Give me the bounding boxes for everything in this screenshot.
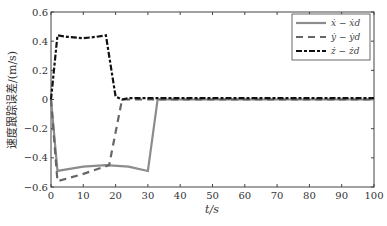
legend-item-y: ẏ − ẏd	[330, 32, 360, 42]
x-tick-label: 60	[238, 190, 251, 201]
y-tick-label: 0.2	[32, 65, 48, 76]
y-tick-label: −0.4	[24, 152, 48, 163]
x-tick-label: 80	[303, 190, 316, 201]
y-tick-label: 0.6	[32, 7, 48, 18]
x-tick-label: 90	[335, 190, 348, 201]
y-tick-label: −0.6	[24, 182, 48, 193]
x-tick-label: 10	[77, 190, 90, 201]
x-tick-label: 100	[364, 190, 383, 201]
chart: 0102030405060708090100 0.60.40.20−0.2−0.…	[0, 0, 387, 226]
y-tick-label: 0.4	[32, 36, 48, 47]
legend-item-x: ẋ − ẋd	[331, 18, 360, 28]
y-tick-label: 0	[42, 94, 48, 105]
x-tick-label: 50	[206, 190, 219, 201]
y-tick-label: −0.2	[24, 123, 48, 134]
x-tick-label: 20	[109, 190, 122, 201]
legend: ẋ − ẋd ẏ − ẏd ż − żd	[292, 14, 370, 60]
legend-item-z: ż − żd	[330, 46, 360, 56]
y-axis-label: 速度跟踪误差/(m/s)	[5, 51, 19, 149]
x-tick-label: 40	[174, 190, 187, 201]
x-axis-label: t/s	[205, 203, 219, 216]
x-tick-label: 30	[142, 190, 155, 201]
x-tick-label: 0	[48, 190, 54, 201]
x-tick-label: 70	[271, 190, 284, 201]
